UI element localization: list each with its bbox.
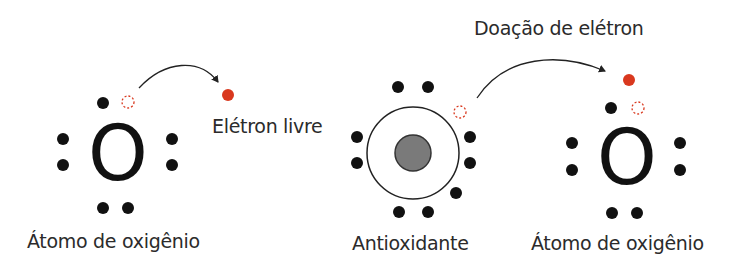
electron-dot: [674, 137, 686, 149]
electron-dot: [122, 202, 134, 214]
nucleus-icon: [395, 135, 431, 171]
electron-dot: [166, 133, 178, 145]
electron-dot: [392, 81, 404, 93]
electron-vacancy-icon: [454, 106, 466, 118]
left-oxygen-symbol: O: [88, 116, 148, 192]
electron-dot: [464, 131, 476, 143]
electron-dot: [422, 206, 434, 218]
donation-label: Doação de elétron: [474, 19, 644, 38]
electron-donation-arrow-icon: [477, 60, 605, 98]
electron-dot: [393, 206, 405, 218]
electron-dot: [566, 164, 578, 176]
electron-dot: [631, 207, 643, 219]
electron-dot: [351, 131, 363, 143]
electron-dot: [57, 159, 69, 171]
donated-electron-dot: [623, 74, 635, 86]
electron-dot: [97, 202, 109, 214]
free-electron-dot: [222, 89, 234, 101]
electron-loss-arrow-icon: [139, 65, 218, 88]
electron-dot: [422, 81, 434, 93]
antioxidant-diagram: O O Átomo de oxigênio Elétron livre Anti…: [0, 0, 747, 272]
electron-dot: [57, 133, 69, 145]
electron-dot: [351, 157, 363, 169]
electron-dot: [166, 159, 178, 171]
right-oxygen-symbol: O: [597, 120, 657, 196]
left-atom-label: Átomo de oxigênio: [27, 232, 200, 251]
electron-dot: [606, 207, 618, 219]
antioxidant-molecule: [351, 81, 476, 218]
electron-dot: [464, 157, 476, 169]
electron-dot: [450, 187, 462, 199]
electron-dot: [674, 164, 686, 176]
antioxidant-label: Antioxidante: [352, 234, 469, 253]
electron-dot: [97, 97, 109, 109]
free-electron-label: Elétron livre: [212, 117, 323, 136]
electron-dot: [566, 137, 578, 149]
right-atom-label: Átomo de oxigênio: [531, 234, 704, 253]
electron-vacancy-icon: [122, 96, 134, 108]
